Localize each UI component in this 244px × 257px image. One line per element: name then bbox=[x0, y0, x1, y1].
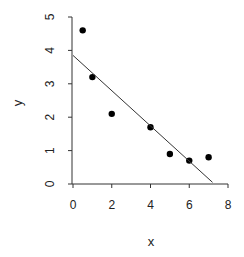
data-point bbox=[109, 111, 115, 117]
y-axis: 012345 bbox=[43, 13, 72, 187]
x-tick-label: 0 bbox=[70, 198, 77, 212]
y-tick-label: 5 bbox=[43, 13, 57, 20]
y-tick-label: 1 bbox=[43, 147, 57, 154]
data-point bbox=[79, 27, 85, 33]
data-point bbox=[205, 154, 211, 160]
y-tick-label: 3 bbox=[43, 80, 57, 87]
y-axis-label: y bbox=[10, 99, 25, 106]
plot-area bbox=[73, 27, 213, 182]
y-tick-label: 4 bbox=[43, 47, 57, 54]
y-tick-label: 0 bbox=[43, 180, 57, 187]
x-tick-label: 2 bbox=[108, 198, 115, 212]
x-axis: 02468 bbox=[70, 184, 232, 212]
data-point bbox=[147, 124, 153, 130]
fit-line bbox=[73, 55, 213, 182]
x-tick-label: 4 bbox=[147, 198, 154, 212]
x-axis-label: x bbox=[148, 234, 155, 249]
data-point bbox=[167, 151, 173, 157]
x-tick-label: 8 bbox=[225, 198, 232, 212]
y-tick-label: 2 bbox=[43, 114, 57, 121]
x-tick-label: 6 bbox=[186, 198, 193, 212]
scatter-plot: 012345 02468 x y bbox=[0, 0, 244, 257]
